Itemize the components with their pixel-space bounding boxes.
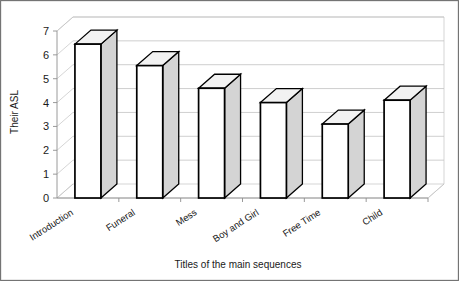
y-tick-label: 6 <box>43 49 49 61</box>
bar-mess <box>199 74 241 198</box>
y-tick-label: 7 <box>43 25 49 37</box>
y-tick-label: 0 <box>43 192 49 204</box>
y-tick-label: 3 <box>43 120 49 132</box>
y-tick-label: 1 <box>43 168 49 180</box>
bar-chart-figure: 01234567 IntroductionFuneralMessBoy and … <box>0 0 459 281</box>
bar-boy-and-girl <box>260 89 302 198</box>
bar-free-time <box>322 110 364 198</box>
chart-canvas: 01234567 IntroductionFuneralMessBoy and … <box>0 0 459 281</box>
y-tick-label: 5 <box>43 73 49 85</box>
y-axis-title: Their ASL <box>9 90 20 134</box>
y-tick-label: 2 <box>43 144 49 156</box>
bar-funeral <box>137 52 179 198</box>
y-tick-label: 4 <box>43 97 49 109</box>
bar-child <box>384 86 426 198</box>
bar-introduction <box>75 30 117 198</box>
x-axis-title: Titles of the main sequences <box>175 259 302 270</box>
